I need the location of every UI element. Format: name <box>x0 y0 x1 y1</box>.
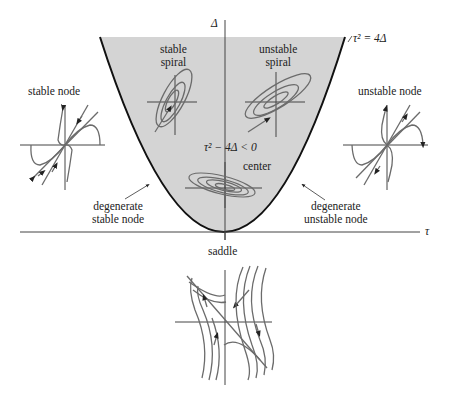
degenerate-unstable-node-label: degenerate unstable node <box>304 200 368 226</box>
delta-axis-label: Δ <box>211 17 218 30</box>
tau-axis-label: τ <box>425 225 429 238</box>
degenerate-stable-leader <box>125 185 148 199</box>
stable-spiral-label: stable spiral <box>160 43 187 69</box>
curve-label-leader <box>348 36 352 42</box>
unstable-node-label: unstable node <box>358 85 422 98</box>
stable-node-icon <box>20 105 105 190</box>
saddle-label: saddle <box>208 245 237 258</box>
parabola-label: τ² = 4Δ <box>353 32 387 45</box>
degenerate-stable-node-label: degenerate stable node <box>92 200 144 226</box>
discriminant-label: τ² − 4Δ < 0 <box>204 141 257 154</box>
unstable-spiral-label: unstable spiral <box>259 43 297 69</box>
degenerate-unstable-leader <box>303 185 325 200</box>
stable-node-label: stable node <box>28 85 80 98</box>
fixed-point-classification-diagram <box>0 0 450 400</box>
center-label: center <box>243 160 271 173</box>
saddle-icon <box>175 266 274 385</box>
unstable-node-icon <box>343 105 428 190</box>
